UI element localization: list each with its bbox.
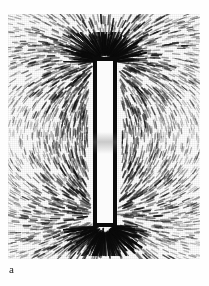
figure-root: a [0,0,209,286]
panel-label: a [9,264,14,275]
bar-magnet [93,57,117,227]
magnetic-field-photograph [8,14,200,259]
